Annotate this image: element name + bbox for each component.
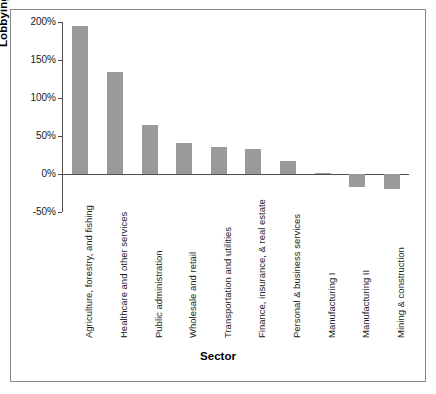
x-tick-label: Finance, insurance, & real estate (257, 199, 267, 338)
y-tick-mark (58, 60, 62, 61)
bar (280, 161, 296, 174)
y-tick-label: 150% (30, 55, 56, 65)
bar (315, 173, 331, 174)
y-tick-label: 50% (36, 131, 56, 141)
y-tick-mark (58, 174, 62, 175)
x-tick-label: Personal & business services (292, 214, 302, 338)
x-tick-label: Transportation and utilities (223, 227, 233, 338)
y-tick-label: 200% (30, 17, 56, 27)
x-tick-label: Healthcare and other services (119, 212, 129, 338)
x-tick-label: Mining & construction (396, 247, 406, 338)
y-axis-line (62, 22, 63, 212)
y-tick-mark (58, 212, 62, 213)
y-tick-label: -50% (33, 207, 56, 217)
bar (72, 26, 88, 174)
bar (176, 143, 192, 174)
x-axis-title: Sector (0, 350, 436, 362)
bar (384, 174, 400, 189)
y-tick-label: 0% (42, 169, 56, 179)
bar (245, 149, 261, 174)
bar (211, 147, 227, 174)
y-tick-mark (58, 98, 62, 99)
bar (107, 72, 123, 174)
chart-figure: Lobbying Percent Change Sector 200%150%1… (0, 0, 436, 394)
x-tick-label: Public administration (154, 250, 164, 338)
bar (349, 174, 365, 187)
y-tick-mark (58, 136, 62, 137)
y-tick-label: 100% (30, 93, 56, 103)
y-tick-mark (58, 22, 62, 23)
x-tick-label: Manufacturing II (361, 270, 371, 338)
bar (142, 125, 158, 174)
x-tick-label: Wholesale and retail (188, 252, 198, 338)
x-tick-label: Agriculture, forestry, and fishing (84, 205, 94, 338)
x-tick-label: Manufacturing I (327, 273, 337, 338)
